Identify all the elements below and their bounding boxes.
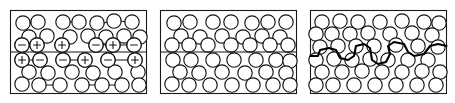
atom-circle <box>266 78 280 92</box>
atom-circle <box>261 15 275 29</box>
charge-sign-upper-1 <box>30 38 44 52</box>
atom-circle <box>72 15 86 29</box>
atom-circle <box>215 65 229 79</box>
atom-circle <box>90 16 104 30</box>
atom-circle <box>309 27 323 41</box>
charge-sign-upper-4 <box>106 38 120 52</box>
charge-sign-upper-2 <box>55 38 69 52</box>
atom-circle <box>347 78 361 92</box>
atom-circle <box>15 77 29 91</box>
atom-circle <box>75 78 89 92</box>
charge-sign-upper-3 <box>89 38 103 52</box>
atom-circle <box>184 53 198 67</box>
atom-circle <box>361 26 375 40</box>
atom-circle <box>165 38 179 52</box>
atom-circle <box>375 65 389 79</box>
atom-circle <box>32 78 46 92</box>
atom-circle <box>203 78 217 92</box>
atom-circle <box>395 14 409 28</box>
panel-1-charged-grain-boundary <box>11 11 148 94</box>
charge-sign-upper-5 <box>127 38 141 52</box>
charge-sign-lower-2 <box>56 53 70 67</box>
atom-circle <box>326 78 340 92</box>
atom-circle <box>269 53 283 67</box>
atom-circle <box>224 15 238 29</box>
atom-circle <box>183 15 197 29</box>
atom-circle <box>315 65 329 79</box>
atom-circle <box>283 78 297 92</box>
atom-circle <box>389 78 403 92</box>
atom-circle <box>410 78 424 92</box>
atom-circle <box>373 15 387 29</box>
atom-circle <box>431 40 445 54</box>
atom-circle <box>281 38 295 52</box>
atom-circle <box>405 26 419 40</box>
atom-circle <box>263 38 277 52</box>
atom-circle <box>227 53 241 67</box>
atom-circle <box>31 15 45 29</box>
atom-circle <box>224 38 238 52</box>
atom-circle <box>367 39 381 53</box>
atom-circle <box>115 78 129 92</box>
atom-circle <box>206 15 220 29</box>
atom-circle <box>165 77 179 91</box>
atom-circle <box>225 78 239 92</box>
atom-circle <box>65 65 79 79</box>
charge-sign-lower-3 <box>78 53 92 67</box>
atom-circle <box>355 64 369 78</box>
atom-circle <box>16 16 30 30</box>
atom-circle <box>95 78 109 92</box>
atom-circle <box>331 39 345 53</box>
atom-circle <box>415 64 429 78</box>
charge-sign-upper-0 <box>15 38 29 52</box>
atom-circle <box>433 65 447 79</box>
atom-circle <box>182 38 196 52</box>
atom-circle <box>56 15 70 29</box>
atom-circle <box>368 78 382 92</box>
atom-circle <box>335 65 349 79</box>
charge-sign-lower-1 <box>33 53 47 67</box>
panel-3-meandering-grain-boundary <box>309 11 447 94</box>
atom-circle <box>309 78 323 92</box>
atom-circle <box>333 14 347 28</box>
atom-circle <box>243 38 257 52</box>
atom-circle <box>395 65 409 79</box>
grain-boundary-figure <box>0 0 455 103</box>
atom-circle <box>245 16 259 30</box>
atom-circle <box>279 15 293 29</box>
atom-circle <box>246 78 260 92</box>
charge-sign-lower-4 <box>101 53 115 67</box>
atom-circle <box>41 66 55 80</box>
atom-circle <box>259 65 273 79</box>
atom-circle <box>86 66 100 80</box>
atom-circle <box>182 78 196 92</box>
atom-circle <box>201 38 215 52</box>
atom-circle <box>53 78 67 92</box>
atom-circle <box>411 39 425 53</box>
bond-line <box>30 22 31 23</box>
atom-circle <box>125 15 139 29</box>
atom-circle <box>167 16 181 30</box>
charge-sign-lower-5 <box>128 53 142 67</box>
panel-2-neutral-straight-grain-boundary <box>161 11 298 94</box>
atom-circle <box>417 15 431 29</box>
atom-circle <box>429 78 443 92</box>
figure-canvas <box>0 0 455 103</box>
atom-circle <box>132 78 146 92</box>
atom-circle <box>206 53 220 67</box>
charge-sign-lower-0 <box>15 53 29 67</box>
atom-circle <box>107 14 121 28</box>
atom-circle <box>249 53 263 67</box>
atom-circle <box>192 66 206 80</box>
